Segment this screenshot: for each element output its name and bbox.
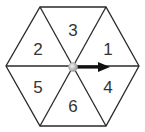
sector-label-2: 2	[33, 40, 42, 59]
sector-label-4: 4	[103, 78, 112, 97]
sector-label-5: 5	[33, 78, 42, 97]
sector-label-3: 3	[68, 21, 77, 40]
hexagon-spinner-diagram: 1 2 3 4 5 6	[0, 0, 145, 132]
sector-label-1: 1	[103, 40, 112, 59]
spinner-arrow-icon	[75, 62, 110, 72]
spinner-pivot-icon	[69, 63, 78, 72]
sector-label-6: 6	[68, 97, 77, 116]
